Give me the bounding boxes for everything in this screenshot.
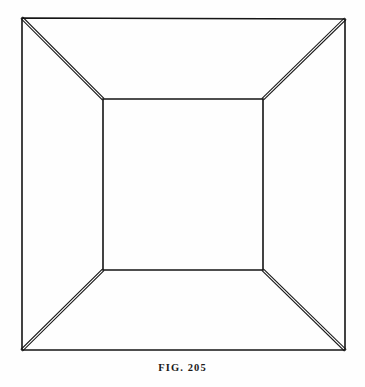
figure-illustration xyxy=(0,0,365,387)
figure-page: FIG. 205 xyxy=(0,0,365,387)
page-background xyxy=(0,0,365,387)
figure-caption: FIG. 205 xyxy=(0,362,365,373)
